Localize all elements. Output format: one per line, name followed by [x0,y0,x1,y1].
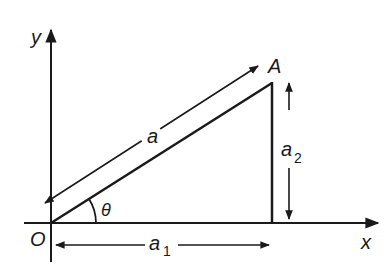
angle-label: θ [101,200,111,220]
angle-arc [89,199,96,223]
vector-label: a [147,125,158,147]
a2-label: a 2 [281,138,302,166]
point-a-label: A [267,55,281,77]
vector-oa [51,83,272,223]
svg-text:2: 2 [294,150,302,166]
a1-label: a 1 [149,232,171,259]
svg-text:a: a [281,138,292,160]
y-axis-label: y [29,26,42,48]
origin-label: O [30,228,46,250]
x-axis-label: x [360,231,372,253]
svg-text:a: a [149,232,160,254]
vector-diagram: y x O A a θ a 1 a 2 [0,0,390,269]
svg-text:1: 1 [163,243,171,259]
